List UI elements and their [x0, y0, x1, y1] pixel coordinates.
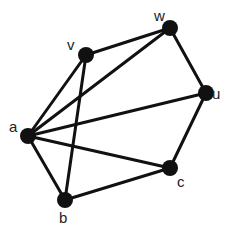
node-c	[162, 160, 178, 176]
node-label-b: b	[59, 209, 67, 226]
node-label-u: u	[212, 85, 220, 102]
graph-svg: wvuacb	[0, 0, 232, 232]
edge-b-a	[28, 136, 65, 200]
edge-v-w	[86, 28, 170, 55]
edge-c-b	[65, 168, 170, 200]
node-label-w: w	[153, 7, 165, 24]
node-label-c: c	[177, 173, 185, 190]
edge-a-c	[28, 136, 170, 168]
node-a	[20, 128, 36, 144]
node-b	[57, 192, 73, 208]
graph-diagram: wvuacb	[0, 0, 232, 232]
node-v	[78, 47, 94, 63]
node-label-v: v	[67, 36, 75, 53]
edge-w-u	[170, 28, 206, 93]
edge-u-c	[170, 93, 206, 168]
node-label-a: a	[9, 118, 18, 135]
